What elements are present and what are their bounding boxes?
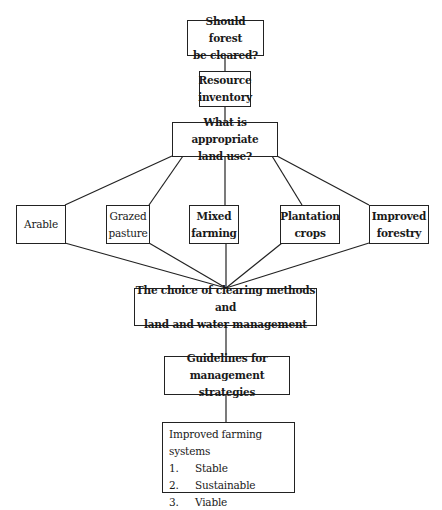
node-management-guidelines: Guidelines for management strategies xyxy=(164,356,290,395)
outcome-title: Improved farming systems xyxy=(169,426,294,460)
node-arable: Arable xyxy=(16,205,66,244)
node-text-line1: The choice of clearing methods and xyxy=(135,282,316,316)
node-text-line1: Mixed xyxy=(197,208,232,225)
item-number: 2. xyxy=(169,477,195,494)
outcome-item: 2. Sustainable xyxy=(169,477,255,494)
node-improved-forestry: Improved forestry xyxy=(369,205,429,244)
node-text-line2: management strategies xyxy=(165,367,289,401)
node-plantation-crops: Plantation crops xyxy=(280,205,340,244)
node-improved-farming-systems: Improved farming systems 1. Stable 2. Su… xyxy=(162,422,295,493)
node-text-line1: Improved xyxy=(372,208,426,225)
node-text-line2: be cleared? xyxy=(193,47,258,64)
node-text-line1: What is appropriate xyxy=(173,114,277,148)
node-text-line1: Grazed xyxy=(110,208,147,225)
node-text-line1: Should forest xyxy=(188,13,263,47)
node-resource-inventory: Resource inventory xyxy=(199,71,251,107)
outcome-item: 1. Stable xyxy=(169,460,228,477)
node-should-forest-be-cleared: Should forest be cleared? xyxy=(187,20,264,56)
item-number: 3. xyxy=(169,494,195,510)
node-text-line2: land use? xyxy=(198,148,252,165)
item-number: 1. xyxy=(169,460,195,477)
outcome-item: 3. Viable xyxy=(169,494,227,510)
node-text-line2: pasture xyxy=(108,225,147,242)
node-text-line2: farming xyxy=(191,225,237,242)
node-text-line2: forestry xyxy=(377,225,422,242)
node-text-line1: Guidelines for xyxy=(187,350,268,367)
node-text-line1: Plantation xyxy=(280,208,339,225)
node-text-line2: land and water management xyxy=(144,316,307,333)
node-text-line2: Arable xyxy=(24,216,58,233)
node-appropriate-land-use: What is appropriate land use? xyxy=(172,122,278,157)
node-mixed-farming: Mixed farming xyxy=(189,205,239,244)
node-text-line2: crops xyxy=(294,225,325,242)
item-label: Sustainable xyxy=(195,477,255,494)
item-label: Stable xyxy=(195,460,228,477)
node-clearing-methods: The choice of clearing methods and land … xyxy=(134,288,317,326)
item-label: Viable xyxy=(195,494,227,510)
node-text-line1: Resource xyxy=(199,72,252,89)
node-grazed-pasture: Grazed pasture xyxy=(106,205,150,244)
node-text-line2: inventory xyxy=(198,89,252,106)
